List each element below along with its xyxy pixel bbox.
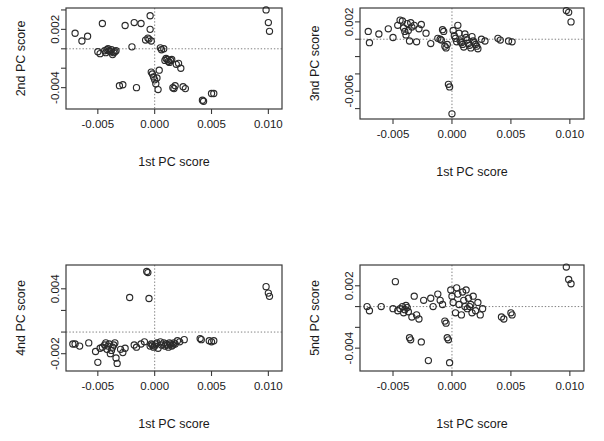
y-tick-label: -0.006 (343, 75, 355, 108)
data-point-group (70, 268, 273, 366)
x-tick-label: 0.010 (254, 118, 283, 130)
x-axis-title: 1st PC score (138, 155, 210, 169)
data-point (146, 295, 152, 301)
data-point (365, 28, 371, 34)
x-tick-label: 0.000 (140, 118, 169, 130)
data-point (266, 28, 272, 34)
data-point (428, 295, 434, 301)
x-tick-label: -0.005 (377, 380, 410, 392)
data-point (447, 360, 453, 366)
plot-frame (360, 265, 584, 371)
y-tick-label: 0.002 (343, 271, 355, 300)
x-tick-label: 0.010 (254, 380, 283, 392)
x-tick-label: 0.005 (197, 380, 226, 392)
data-point (72, 30, 78, 36)
y-tick-label: -0.004 (343, 331, 355, 364)
data-point (418, 339, 424, 345)
data-point (423, 30, 429, 36)
data-point (385, 26, 391, 32)
y-tick-label: -0.004 (49, 71, 61, 104)
data-point (441, 28, 447, 34)
data-point (129, 44, 135, 50)
data-point (366, 40, 372, 46)
y-tick-label: 0.004 (49, 274, 61, 303)
data-point (265, 19, 271, 25)
y-axis-title: 3nd PC score (308, 26, 322, 102)
data-point (376, 31, 382, 37)
data-point (411, 293, 417, 299)
data-point (211, 338, 217, 344)
data-point (421, 297, 427, 303)
data-point (448, 287, 454, 293)
x-axis-title: 1st PC score (436, 165, 508, 179)
y-axis-title: 4nd PC score (14, 280, 28, 356)
data-point (133, 85, 139, 91)
data-point (122, 22, 128, 28)
scatter-panel-top-right: -0.0050.0000.0050.0100.002-0.0063nd PC s… (302, 0, 604, 200)
x-tick-label: 0.010 (555, 128, 584, 140)
data-point (86, 340, 92, 346)
x-tick-label: 0.000 (438, 128, 467, 140)
data-point (155, 86, 161, 92)
data-point (435, 291, 441, 297)
data-point (475, 299, 481, 305)
x-axis-title: 1st PC score (436, 417, 508, 431)
data-point (131, 19, 137, 25)
data-point (85, 33, 91, 39)
data-point (450, 299, 456, 305)
data-point-group (72, 7, 273, 104)
data-point (445, 337, 451, 343)
data-point (509, 312, 515, 318)
data-point (455, 22, 461, 28)
x-tick-label: 0.005 (497, 380, 526, 392)
plot-frame (66, 265, 282, 371)
data-point (147, 13, 153, 19)
data-point (428, 40, 434, 46)
data-point (127, 294, 133, 300)
y-axis-title: 5nd PC score (308, 280, 322, 356)
scatter-panel-top-left: -0.0050.0000.0050.0100.002-0.0042nd PC s… (0, 0, 302, 200)
data-point (477, 312, 483, 318)
y-tick-label: 0.002 (49, 15, 61, 44)
y-tick-label: 0.002 (343, 7, 355, 36)
x-tick-label: -0.005 (82, 118, 115, 130)
data-point (147, 26, 153, 32)
data-point (443, 320, 449, 326)
data-point (568, 19, 574, 25)
data-point (425, 358, 431, 364)
scatter-panel-bottom-left: -0.0050.0000.0050.0100.004-0.0024nd PC s… (0, 245, 302, 441)
y-tick-label: -0.002 (49, 337, 61, 370)
x-tick-label: 0.005 (497, 128, 526, 140)
x-tick-label: 0.005 (197, 118, 226, 130)
data-point (263, 284, 269, 290)
data-point (469, 34, 475, 40)
x-axis-title: 1st PC score (138, 417, 210, 431)
data-point (408, 337, 414, 343)
plot-frame (360, 8, 584, 119)
scatter-panel-bottom-right: -0.0050.0000.0050.0100.002-0.0045nd PC s… (302, 245, 604, 441)
x-tick-label: 0.000 (438, 380, 467, 392)
data-point (468, 301, 474, 307)
x-tick-label: -0.005 (377, 128, 410, 140)
data-point (79, 38, 85, 44)
data-point (458, 312, 464, 318)
data-point-group (364, 264, 574, 366)
y-axis-title: 2nd PC score (14, 21, 28, 97)
plot-frame (66, 8, 282, 109)
data-point (392, 279, 398, 285)
data-point (156, 67, 162, 73)
x-tick-label: 0.000 (140, 380, 169, 392)
data-point (95, 359, 101, 365)
data-point (454, 285, 460, 291)
data-point (138, 20, 144, 26)
data-point-group (365, 8, 574, 117)
data-point (452, 310, 458, 316)
data-point (99, 20, 105, 26)
x-tick-label: -0.005 (82, 380, 115, 392)
x-tick-label: 0.010 (555, 380, 584, 392)
